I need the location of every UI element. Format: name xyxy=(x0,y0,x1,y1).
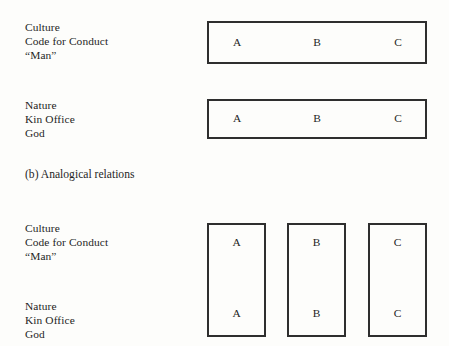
band-letter: C xyxy=(394,37,402,48)
band-letter: A xyxy=(233,37,241,48)
label-line: God xyxy=(25,327,75,341)
column-letter-top: C xyxy=(394,237,402,248)
column-letter-top: A xyxy=(232,237,240,248)
figure-canvas: Culture Code for Conduct “Man” A B C Nat… xyxy=(0,0,449,346)
band-letter: B xyxy=(313,113,321,124)
label-line: Kin Office xyxy=(25,112,75,126)
column-letter-bottom: C xyxy=(394,308,402,319)
label-line: Nature xyxy=(25,98,75,112)
label-line: Kin Office xyxy=(25,313,75,327)
label-line: Nature xyxy=(25,299,75,313)
band-box-culture: A B C xyxy=(207,21,427,64)
label-block-nature-bottom: Nature Kin Office God xyxy=(25,299,75,342)
column-letter-top: B xyxy=(313,237,321,248)
column-letter-bottom: A xyxy=(232,308,240,319)
label-line: “Man” xyxy=(25,48,108,62)
label-block-nature-top: Nature Kin Office God xyxy=(25,98,75,141)
label-line: “Man” xyxy=(25,249,108,263)
label-line: Culture xyxy=(25,221,108,235)
label-block-culture-bottom: Culture Code for Conduct “Man” xyxy=(25,221,108,264)
column-letter-bottom: B xyxy=(313,308,321,319)
label-line: Culture xyxy=(25,20,108,34)
band-letter: A xyxy=(233,113,241,124)
column-box-b: B B xyxy=(287,223,346,337)
band-letter: B xyxy=(313,37,321,48)
label-line: God xyxy=(25,126,75,140)
band-letter: C xyxy=(394,113,402,124)
column-box-c: C C xyxy=(368,223,427,337)
label-block-culture-top: Culture Code for Conduct “Man” xyxy=(25,20,108,63)
band-box-nature: A B C xyxy=(207,99,427,139)
label-line: Code for Conduct xyxy=(25,235,108,249)
figure-caption: (b) Analogical relations xyxy=(25,168,134,182)
column-box-a: A A xyxy=(207,223,266,337)
label-line: Code for Conduct xyxy=(25,34,108,48)
